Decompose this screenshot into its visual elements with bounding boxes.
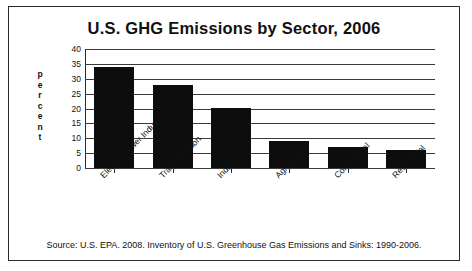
gridline (85, 123, 435, 124)
y-axis-tick-label: 10 (55, 133, 81, 143)
plot-area (85, 49, 435, 168)
y-axis-label-letter: t (33, 132, 47, 143)
y-axis-ticks: 0510152025303540 (53, 49, 81, 169)
chart-title: U.S. GHG Emissions by Sector, 2006 (9, 19, 459, 38)
y-axis-tick-label: 40 (55, 44, 81, 54)
chart-figure: U.S. GHG Emissions by Sector, 2006 p e r… (8, 6, 460, 261)
y-axis-tick-label: 0 (55, 163, 81, 173)
gridline (85, 79, 435, 80)
y-axis-label-letter: p (33, 69, 47, 80)
y-axis-tick-label: 30 (55, 74, 81, 84)
gridline (85, 49, 435, 50)
y-axis-label-letter: e (33, 111, 47, 122)
gridline (85, 109, 435, 110)
source-note: Source: U.S. EPA. 2008. Inventory of U.S… (9, 240, 459, 250)
gridline (85, 168, 435, 169)
y-axis-tick-label: 35 (55, 59, 81, 69)
y-axis-label-letter: r (33, 90, 47, 101)
gridline (85, 94, 435, 95)
y-axis-label: p e r c e n t (33, 69, 47, 143)
y-axis-tick-label: 5 (55, 148, 81, 158)
y-axis-label-letter: n (33, 122, 47, 133)
y-axis-label-letter: c (33, 101, 47, 112)
y-axis-tick-label: 15 (55, 118, 81, 128)
y-axis-tick-label: 25 (55, 89, 81, 99)
gridline (85, 153, 435, 154)
y-axis-label-letter: e (33, 80, 47, 91)
y-axis-tick-label: 20 (55, 104, 81, 114)
gridline (85, 64, 435, 65)
